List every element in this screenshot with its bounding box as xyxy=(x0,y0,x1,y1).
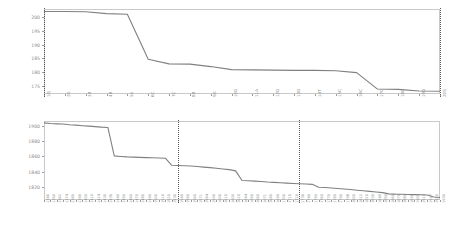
x-tick-label: 1362 xyxy=(58,194,62,203)
x-tick-label: 1430 xyxy=(103,194,107,203)
x-tick-mark xyxy=(315,94,316,96)
chart-panel-bottom: 18201840186018801900 1340135013621374138… xyxy=(0,116,461,232)
x-tick-label: 6C xyxy=(150,92,155,97)
x-tick-label: 1350 xyxy=(52,194,56,203)
vertical-reference-line xyxy=(44,8,45,97)
x-tick-label: 1780 xyxy=(333,194,337,203)
series-line xyxy=(44,123,440,198)
y-tick-label: 1900 xyxy=(10,123,40,128)
x-tick-label: 1720 xyxy=(295,194,299,203)
vertical-reference-line xyxy=(440,8,441,97)
x-tick-mark xyxy=(357,200,358,202)
x-tick-label: 13G xyxy=(296,89,301,97)
x-tick-label: 7C xyxy=(171,92,176,97)
x-tick-label: 1540 xyxy=(180,194,184,203)
x-tick-label: 9G xyxy=(212,91,217,97)
x-tick-mark xyxy=(419,94,420,96)
x-tick-label: 17C xyxy=(379,89,384,97)
x-tick-mark xyxy=(376,200,377,202)
x-tick-label: 1930 xyxy=(442,194,446,203)
x-tick-mark xyxy=(63,200,64,202)
x-tick-mark xyxy=(440,200,441,202)
x-tick-label: 1571 xyxy=(199,194,203,203)
x-tick-mark xyxy=(210,200,211,202)
x-tick-mark xyxy=(389,200,390,202)
x-tick-label: 1671 xyxy=(263,194,267,203)
x-tick-label: 1560 xyxy=(193,194,197,203)
x-tick-label: 19G xyxy=(421,89,426,97)
x-tick-label: 1480 xyxy=(141,194,145,203)
x-tick-label: 1590 xyxy=(212,194,216,203)
y-tick-label: 200 xyxy=(10,15,40,20)
x-tick-label: 1812 xyxy=(359,194,363,203)
y-tick-label: 1840 xyxy=(10,169,40,174)
y-tick-mark xyxy=(42,172,44,173)
x-tick-label: 1520 xyxy=(167,194,171,203)
x-tick-label: 1550 xyxy=(186,194,190,203)
x-tick-label: 1584 xyxy=(205,194,209,203)
x-tick-label: 1644 xyxy=(244,194,248,203)
x-tick-label: 1374 xyxy=(65,194,69,203)
x-tick-label: 1490 xyxy=(148,194,152,203)
data-line-bottom xyxy=(0,116,461,232)
x-tick-label: 1920 xyxy=(435,194,439,203)
x-tick-label: 1820 xyxy=(365,194,369,203)
y-tick-mark xyxy=(42,187,44,188)
y-tick-label: 195 xyxy=(10,28,40,33)
x-tick-label: 1450 xyxy=(122,194,126,203)
x-tick-mark xyxy=(293,200,294,202)
x-tick-label: 1600 xyxy=(218,194,222,203)
x-tick-label: 1340 xyxy=(46,194,50,203)
x-tick-label: 1680 xyxy=(269,194,273,203)
y-tick-label: 175 xyxy=(10,83,40,88)
x-tick-label: 10G xyxy=(233,89,238,97)
figure-container: 175180185190195200 10J2G3B4B5A6C7C8B9G10… xyxy=(0,0,461,232)
x-tick-label: 1410 xyxy=(90,194,94,203)
x-tick-mark xyxy=(169,94,170,96)
y-tick-label: 185 xyxy=(10,56,40,61)
x-tick-label: 1620 xyxy=(237,194,241,203)
x-tick-label: 5A xyxy=(129,92,134,97)
x-tick-label: 1600 xyxy=(231,194,235,203)
x-tick-label: 1917 xyxy=(429,194,433,203)
y-tick-label: 180 xyxy=(10,70,40,75)
x-tick-mark xyxy=(44,200,45,202)
x-tick-label: 1800 xyxy=(352,194,356,203)
x-tick-label: 1530 xyxy=(173,194,177,203)
x-tick-mark xyxy=(76,200,77,202)
x-tick-mark xyxy=(261,200,262,202)
x-tick-label: 1660 xyxy=(256,194,260,203)
x-tick-label: 1770 xyxy=(327,194,331,203)
y-tick-label: 190 xyxy=(10,42,40,47)
x-tick-mark xyxy=(408,200,409,202)
x-tick-label: 1830 xyxy=(371,194,375,203)
x-tick-label: 1890 xyxy=(410,194,414,203)
x-tick-label: 8B xyxy=(191,92,196,97)
x-tick-label: 1798 xyxy=(346,194,350,203)
x-tick-label: 1740 xyxy=(307,194,311,203)
x-tick-label: 1860 xyxy=(391,194,395,203)
x-tick-label: 1710 xyxy=(288,194,292,203)
y-tick-label: 1880 xyxy=(10,138,40,143)
y-tick-mark xyxy=(42,156,44,157)
x-tick-label: 1460 xyxy=(129,194,133,203)
x-tick-mark xyxy=(95,200,96,202)
x-tick-mark xyxy=(159,200,160,202)
x-tick-label: 1424 xyxy=(97,194,101,203)
x-tick-label: 15C xyxy=(337,89,342,97)
x-tick-label: 1750 xyxy=(314,194,318,203)
chart-panel-top: 175180185190195200 10J2G3B4B5A6C7C8B9G10… xyxy=(0,0,461,116)
x-tick-label: 1910 xyxy=(422,194,426,203)
x-tick-label: 1880 xyxy=(403,194,407,203)
x-tick-label: 3B xyxy=(87,92,92,97)
vertical-reference-line xyxy=(178,120,179,203)
x-tick-label: 14T xyxy=(317,89,322,97)
y-tick-label: 1820 xyxy=(10,184,40,189)
x-tick-label: 1850 xyxy=(384,194,388,203)
y-tick-label: 1860 xyxy=(10,154,40,159)
x-tick-label: 1500 xyxy=(154,194,158,203)
x-tick-label: 1840 xyxy=(378,194,382,203)
x-tick-label: 1700 xyxy=(282,194,286,203)
x-tick-mark xyxy=(294,94,295,96)
y-tick-mark xyxy=(42,126,44,127)
